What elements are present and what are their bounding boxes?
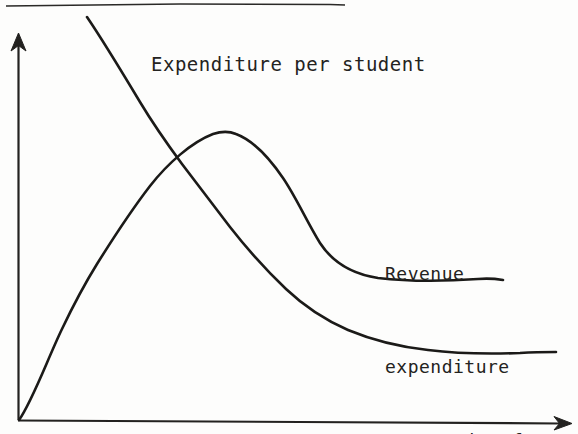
figure-container: Expenditure per student Revenue expendit… [0, 0, 578, 434]
series-label-line-1: Revenue [385, 258, 510, 289]
x-axis-label-line-1: Time from [455, 426, 557, 434]
top-rule-line [6, 4, 345, 6]
chart-title: Expenditure per student [151, 52, 426, 76]
x-axis-label: Time from inception [455, 366, 557, 434]
